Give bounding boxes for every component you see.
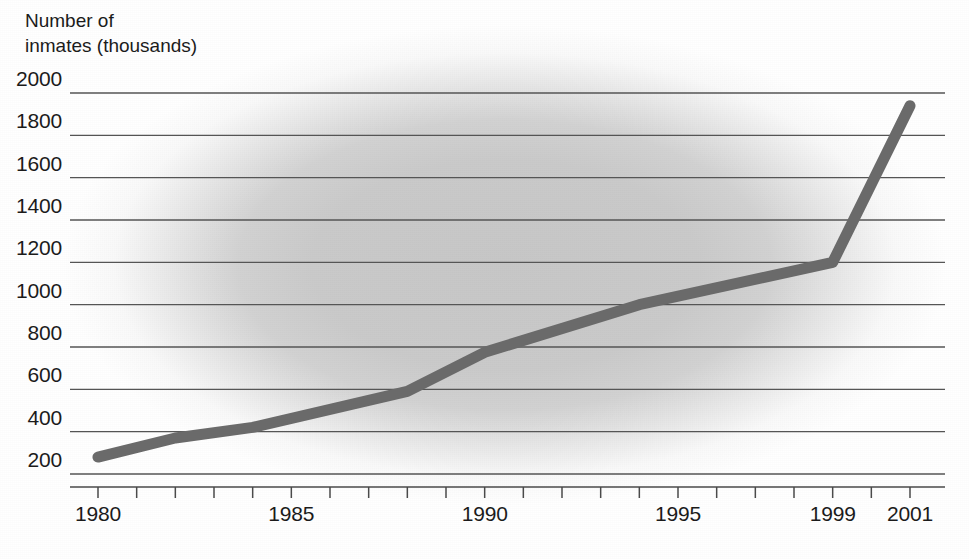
x-axis-tick-label: 1995	[655, 502, 701, 526]
x-axis-tick-label: 1980	[75, 502, 121, 526]
y-axis-tick-label: 1000	[0, 279, 62, 303]
y-axis-tick-label: 800	[0, 321, 62, 345]
x-tick-marks-group	[98, 487, 910, 498]
y-axis-tick-label: 1400	[0, 194, 62, 218]
gridlines-group	[70, 93, 945, 474]
x-axis-tick-label: 1999	[810, 502, 856, 526]
data-line-series-0	[98, 106, 910, 457]
plot-area	[0, 0, 969, 559]
y-axis-tick-label: 600	[0, 363, 62, 387]
x-axis-tick-label: 2001	[887, 502, 933, 526]
y-axis-tick-label: 1800	[0, 109, 62, 133]
y-axis-tick-label: 2000	[0, 67, 62, 91]
chart-figure: Number of inmates (thousands) 2000180016…	[0, 0, 969, 559]
y-axis-tick-label: 400	[0, 406, 62, 430]
x-axis-tick-label: 1990	[462, 502, 508, 526]
y-axis-tick-label: 200	[0, 448, 62, 472]
y-axis-tick-label: 1200	[0, 236, 62, 260]
x-axis-tick-label: 1985	[268, 502, 314, 526]
y-axis-tick-label: 1600	[0, 152, 62, 176]
